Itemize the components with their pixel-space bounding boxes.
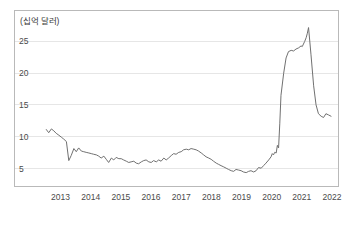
x-tick-label: 2020 <box>262 192 281 202</box>
x-tick-label: 2017 <box>172 192 191 202</box>
series-line <box>15 11 338 186</box>
y-axis-unit-label: (십억 달러) <box>20 14 59 26</box>
y-tick-label: 25 <box>19 36 28 46</box>
x-tick-label: 2013 <box>51 192 70 202</box>
plot-area <box>14 10 339 187</box>
x-tick-label: 2014 <box>81 192 100 202</box>
x-tick-label: 2021 <box>292 192 311 202</box>
y-tick-label: 20 <box>19 68 28 78</box>
y-tick-label: 15 <box>19 100 28 110</box>
chart-figure: (십억 달러) 510152025 2013201420152016201720… <box>0 0 352 230</box>
x-tick-label: 2019 <box>232 192 251 202</box>
y-tick-label: 10 <box>19 132 28 142</box>
x-tick-label: 2016 <box>142 192 161 202</box>
x-tick-label: 2022 <box>323 192 342 202</box>
x-tick-label: 2015 <box>111 192 130 202</box>
x-tick-label: 2018 <box>202 192 221 202</box>
y-tick-label: 5 <box>19 164 24 174</box>
